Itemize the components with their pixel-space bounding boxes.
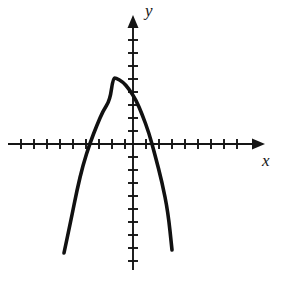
graph-figure: y x bbox=[0, 0, 281, 284]
figure-background bbox=[0, 0, 281, 284]
coordinate-plane-svg bbox=[0, 0, 281, 284]
x-axis-label: x bbox=[262, 152, 270, 169]
y-axis-label: y bbox=[145, 2, 153, 19]
